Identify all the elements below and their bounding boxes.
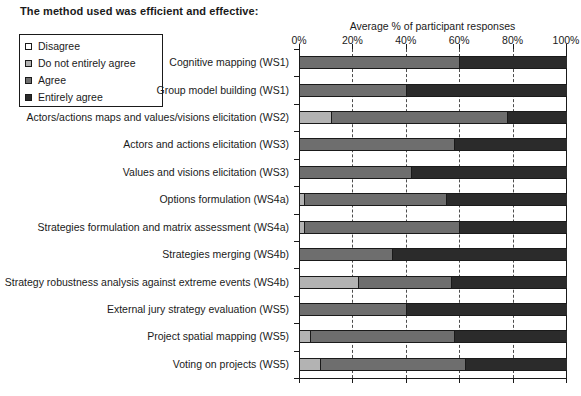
y-tick-mark	[294, 104, 299, 105]
bar-row[interactable]	[300, 303, 567, 316]
gridline	[513, 49, 514, 378]
bar-row[interactable]	[300, 138, 567, 151]
category-label: Cognitive mapping (WS1)	[169, 56, 289, 69]
bar-segment-entirely-agree[interactable]	[412, 166, 567, 179]
x-tick-mark-bottom	[459, 378, 460, 383]
x-tick-mark-bottom	[352, 378, 353, 383]
plot-frame	[299, 49, 566, 378]
gridline	[352, 49, 353, 378]
legend-item: Disagree	[25, 38, 162, 55]
category-label: Strategies formulation and matrix assess…	[37, 221, 289, 234]
bar-segment-entirely-agree[interactable]	[393, 248, 567, 261]
y-tick-mark	[294, 351, 299, 352]
x-tick-mark-bottom	[299, 378, 300, 383]
bar-segment-entirely-agree[interactable]	[460, 56, 567, 69]
bar-segment-agree[interactable]	[311, 330, 455, 343]
legend-swatch-do-not-entirely-agree	[25, 60, 32, 67]
bar-segment-agree[interactable]	[300, 248, 393, 261]
bar-row[interactable]	[300, 358, 567, 371]
y-tick-mark	[294, 241, 299, 242]
plot-area	[299, 49, 566, 378]
y-tick-mark	[294, 378, 299, 379]
bar-segment-entirely-agree[interactable]	[447, 193, 567, 206]
legend-item: Agree	[25, 72, 162, 89]
bar-row[interactable]	[300, 193, 567, 206]
bar-segment-do-not-entirely-agree[interactable]	[300, 330, 311, 343]
bar-segment-entirely-agree[interactable]	[452, 276, 567, 289]
bar-segment-entirely-agree[interactable]	[466, 358, 567, 371]
bar-segment-agree[interactable]	[332, 111, 508, 124]
bar-segment-entirely-agree[interactable]	[460, 221, 567, 234]
category-label: Actors/actions maps and values/visions e…	[26, 111, 289, 124]
bar-segment-agree[interactable]	[300, 56, 460, 69]
legend-swatch-agree	[25, 77, 32, 84]
bar-row[interactable]	[300, 56, 567, 69]
legend-label: Agree	[38, 75, 66, 86]
bar-segment-entirely-agree[interactable]	[508, 111, 567, 124]
y-tick-mark	[294, 159, 299, 160]
x-tick-label: 100%	[546, 34, 581, 46]
y-tick-mark	[294, 76, 299, 77]
category-label: External jury strategy evaluation (WS5)	[107, 303, 289, 316]
gridline	[406, 49, 407, 378]
bar-segment-agree[interactable]	[305, 193, 447, 206]
bar-segment-entirely-agree[interactable]	[407, 84, 567, 97]
legend-item: Entirely agree	[25, 89, 162, 106]
bar-row[interactable]	[300, 221, 567, 234]
legend-label: Entirely agree	[38, 92, 103, 103]
category-label: Options formulation (WS4a)	[159, 193, 289, 206]
gridline	[459, 49, 460, 378]
legend-label: Do not entirely agree	[38, 58, 135, 69]
bar-segment-do-not-entirely-agree[interactable]	[300, 358, 321, 371]
category-label: Project spatial mapping (WS5)	[147, 330, 289, 343]
chart-figure: The method used was efficient and effect…	[0, 0, 581, 396]
bar-segment-entirely-agree[interactable]	[455, 330, 567, 343]
y-tick-mark	[294, 268, 299, 269]
y-tick-mark	[294, 49, 299, 50]
category-label: Strategy robustness analysis against ext…	[5, 276, 289, 289]
gridline	[566, 49, 567, 378]
bar-segment-agree[interactable]	[300, 138, 455, 151]
x-tick-mark-bottom	[406, 378, 407, 383]
chart-title: The method used was efficient and effect…	[20, 5, 259, 17]
category-label: Values and visions elicitation (WS3)	[123, 166, 289, 179]
bar-segment-do-not-entirely-agree[interactable]	[300, 276, 359, 289]
bar-segment-entirely-agree[interactable]	[407, 303, 567, 316]
bar-row[interactable]	[300, 276, 567, 289]
bar-segment-agree[interactable]	[300, 166, 412, 179]
x-tick-mark-bottom	[513, 378, 514, 383]
legend-swatch-entirely-agree	[25, 94, 32, 101]
category-label: Group model building (WS1)	[157, 84, 289, 97]
axis-line-bottom	[299, 378, 566, 379]
chart-legend: Disagree Do not entirely agree Agree Ent…	[19, 34, 163, 107]
y-tick-mark	[294, 186, 299, 187]
bar-row[interactable]	[300, 111, 567, 124]
y-tick-mark	[294, 131, 299, 132]
bar-segment-agree[interactable]	[359, 276, 452, 289]
bar-segment-do-not-entirely-agree[interactable]	[300, 111, 332, 124]
x-axis-title: Average % of participant responses	[299, 20, 566, 32]
y-tick-mark	[294, 296, 299, 297]
category-label: Actors and actions elicitation (WS3)	[123, 138, 289, 151]
x-tick-mark-bottom	[566, 378, 567, 383]
legend-swatch-disagree	[25, 43, 32, 50]
bar-segment-agree[interactable]	[300, 303, 407, 316]
bar-row[interactable]	[300, 330, 567, 343]
legend-label: Disagree	[38, 41, 80, 52]
bar-row[interactable]	[300, 166, 567, 179]
y-tick-mark	[294, 323, 299, 324]
bar-row[interactable]	[300, 248, 567, 261]
bar-row[interactable]	[300, 84, 567, 97]
legend-item: Do not entirely agree	[25, 55, 162, 72]
category-label: Voting on projects (WS5)	[173, 358, 289, 371]
bar-segment-entirely-agree[interactable]	[455, 138, 567, 151]
bar-segment-agree[interactable]	[300, 84, 407, 97]
y-tick-mark	[294, 214, 299, 215]
bar-segment-agree[interactable]	[321, 358, 465, 371]
category-label: Strategies merging (WS4b)	[162, 248, 289, 261]
bar-segment-agree[interactable]	[305, 221, 460, 234]
